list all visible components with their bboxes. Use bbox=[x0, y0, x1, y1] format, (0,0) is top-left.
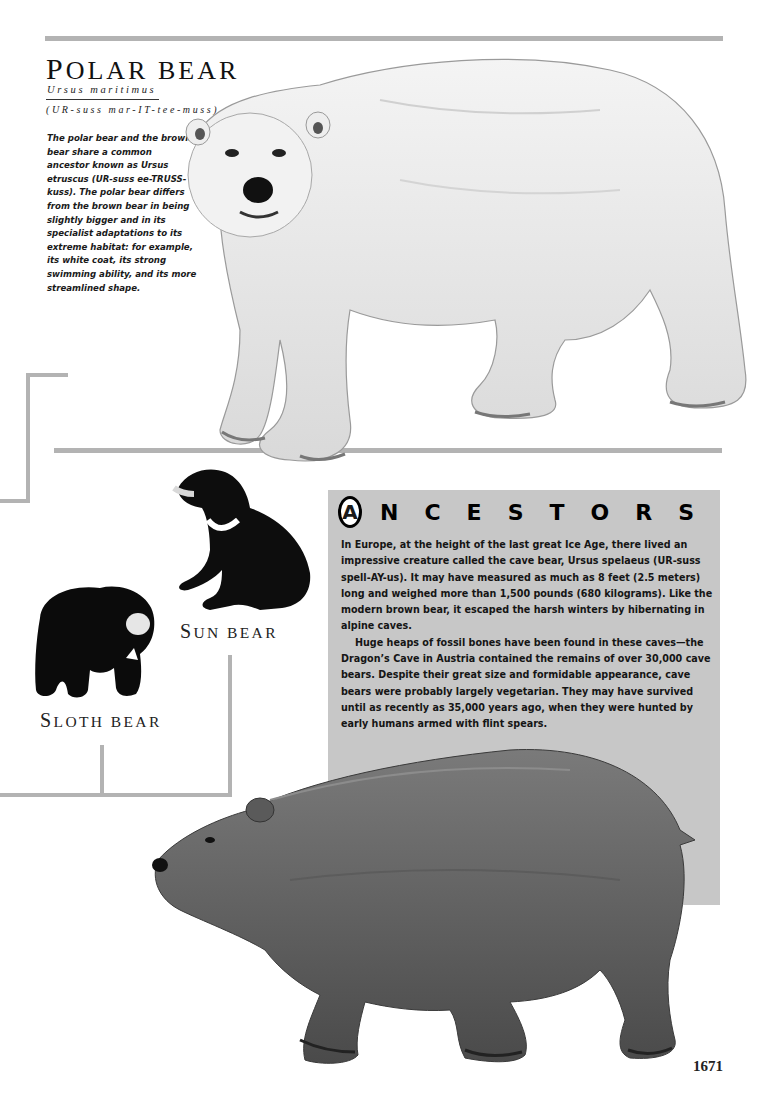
sloth-bear-label: SLOTH BEAR bbox=[40, 709, 162, 732]
latin-name: Ursus maritimus bbox=[47, 84, 156, 95]
sloth-bear-illustration bbox=[30, 578, 160, 703]
title-initial: P bbox=[46, 52, 66, 85]
latin-underline bbox=[46, 99, 159, 100]
sun-bear-illustration bbox=[170, 458, 320, 618]
ancestors-heading-text: NCESTORS bbox=[380, 500, 720, 525]
sun-bear-label-rest: UN BEAR bbox=[194, 624, 278, 641]
polar-bear-illustration bbox=[180, 40, 755, 470]
sloth-bear-label-rest: LOTH BEAR bbox=[54, 713, 162, 730]
polar-bear-intro: The polar bear and the brown bear share … bbox=[47, 132, 197, 295]
sun-bear-label: SUN BEAR bbox=[180, 620, 278, 643]
sun-bear-label-initial: S bbox=[180, 620, 194, 642]
ancestors-paragraph-2: Huge heaps of fossil bones have been fou… bbox=[341, 635, 717, 733]
ancestors-body: In Europe, at the height of the last gre… bbox=[341, 537, 717, 733]
sloth-bear-label-initial: S bbox=[40, 709, 54, 731]
ancestors-initial-badge: A bbox=[338, 496, 362, 528]
tree-connector-sloth-bear bbox=[100, 745, 104, 797]
ancestors-heading: A NCESTORS bbox=[330, 490, 720, 534]
tree-connector-left-foot bbox=[0, 499, 30, 503]
tree-connector-top bbox=[26, 373, 68, 377]
tree-connector-vertical-left bbox=[26, 373, 30, 503]
cave-bear-illustration bbox=[150, 740, 700, 1070]
ancestors-paragraph-1: In Europe, at the height of the last gre… bbox=[341, 537, 717, 635]
page-number: 1671 bbox=[693, 1058, 723, 1075]
